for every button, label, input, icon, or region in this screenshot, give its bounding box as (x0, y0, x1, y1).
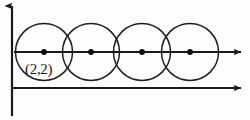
coordinate-figure: (2,2) (0, 0, 250, 120)
center-dot-4 (187, 49, 193, 55)
center-dot-1 (41, 49, 47, 55)
point-label-first-center: (2,2) (25, 61, 53, 78)
center-dot-2 (88, 49, 94, 55)
center-dot-3 (139, 49, 145, 55)
figure-canvas: (2,2) (0, 0, 250, 120)
